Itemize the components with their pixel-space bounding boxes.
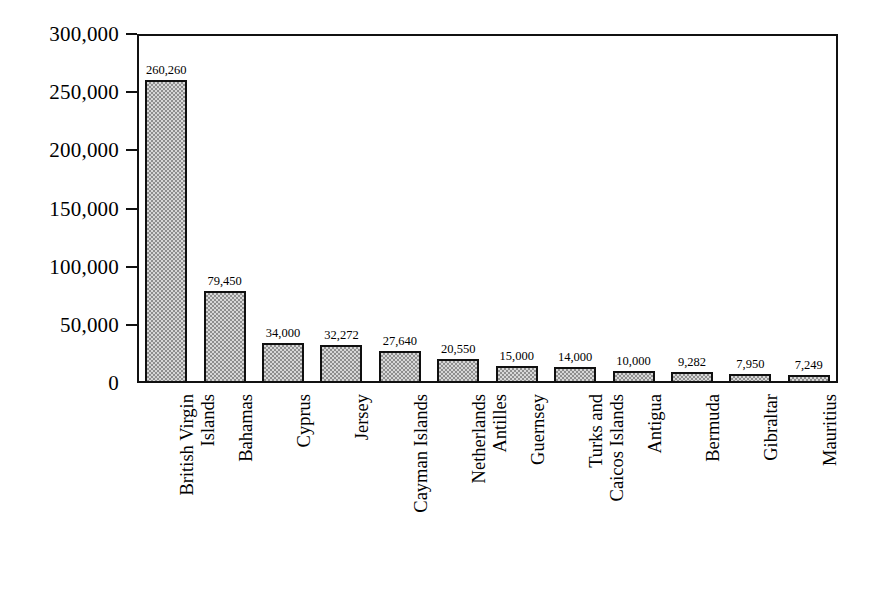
category-label: Cyprus <box>294 394 315 447</box>
category-label: British VirginIslands <box>177 394 219 496</box>
y-axis-tick-mark <box>126 208 137 210</box>
y-axis-tick-mark <box>126 33 137 35</box>
category-label-line: Mauritius <box>820 394 841 466</box>
bar-group: 32,272 <box>320 34 362 383</box>
bar-group: 7,950 <box>729 34 771 383</box>
bar-group: 9,282 <box>671 34 713 383</box>
y-axis-tick-label: 300,000 <box>49 19 119 49</box>
category-label: Turks andCaicos Islands <box>586 394 628 501</box>
category-label-line: Antilles <box>490 394 511 453</box>
y-axis-tick-label: 50,000 <box>60 310 119 340</box>
category-label: Cayman Islands <box>411 394 432 513</box>
category-label-line: Gibraltar <box>761 394 782 461</box>
bar-value-label: 27,640 <box>383 334 417 348</box>
category-label-line: Bermuda <box>703 394 724 462</box>
y-axis-tick-mark <box>126 91 137 93</box>
bar-group: 79,450 <box>204 34 246 383</box>
bar[interactable] <box>613 371 655 383</box>
y-axis-tick-label: 150,000 <box>49 194 119 224</box>
y-axis-tick-mark <box>126 149 137 151</box>
bar[interactable] <box>496 366 538 383</box>
bar[interactable] <box>262 343 304 383</box>
bar[interactable] <box>729 374 771 383</box>
category-label-line: Islands <box>198 394 219 446</box>
bar[interactable] <box>437 359 479 383</box>
category-label-line: Caicos Islands <box>607 394 628 501</box>
category-label-line: Bahamas <box>236 394 257 462</box>
bar-chart: 050,000100,000150,000200,000250,000300,0… <box>0 0 871 589</box>
y-axis-tick-label: 250,000 <box>49 77 119 107</box>
category-label-line: Cyprus <box>294 394 315 447</box>
bar-group: 15,000 <box>496 34 538 383</box>
category-label-line: Guernsey <box>528 394 549 465</box>
bar[interactable] <box>554 367 596 383</box>
y-axis-tick-mark <box>126 324 137 326</box>
category-label: Antigua <box>645 394 666 454</box>
bar-group: 14,000 <box>554 34 596 383</box>
category-label: Jersey <box>352 394 373 440</box>
category-label-line: Jersey <box>352 394 373 440</box>
bar-group: 10,000 <box>613 34 655 383</box>
bar-value-label: 79,450 <box>207 274 241 288</box>
category-label-line: Netherlands <box>469 394 490 483</box>
y-axis-tick-label: 200,000 <box>49 135 119 165</box>
category-label: Guernsey <box>528 394 549 465</box>
category-label-line: Antigua <box>645 394 666 454</box>
category-label: Bermuda <box>703 394 724 462</box>
bar-value-label: 7,950 <box>736 357 764 371</box>
category-label-line: Cayman Islands <box>411 394 432 513</box>
category-label: Mauritius <box>820 394 841 466</box>
bar-value-label: 260,260 <box>146 63 187 77</box>
bar-value-label: 32,272 <box>324 328 358 342</box>
y-axis-tick-label: 0 <box>108 368 119 398</box>
bar-value-label: 9,282 <box>678 355 706 369</box>
category-label: Gibraltar <box>761 394 782 461</box>
bar[interactable] <box>379 351 421 383</box>
y-axis-tick-label: 100,000 <box>49 252 119 282</box>
bar-group: 7,249 <box>788 34 830 383</box>
bar[interactable] <box>320 345 362 383</box>
bar-value-label: 34,000 <box>266 326 300 340</box>
bar-group: 20,550 <box>437 34 479 383</box>
category-label: NetherlandsAntilles <box>469 394 511 483</box>
bar[interactable] <box>145 80 187 383</box>
bar-value-label: 14,000 <box>558 350 592 364</box>
category-label-line: Turks and <box>586 394 607 468</box>
category-label-line: British Virgin <box>177 394 198 496</box>
bar-value-label: 15,000 <box>500 349 534 363</box>
bar-group: 27,640 <box>379 34 421 383</box>
y-axis-tick-mark <box>126 266 137 268</box>
bar[interactable] <box>671 372 713 383</box>
bar[interactable] <box>788 375 830 383</box>
bar-value-label: 10,000 <box>616 354 650 368</box>
bar-value-label: 7,249 <box>795 358 823 372</box>
category-label: Bahamas <box>236 394 257 462</box>
bar-group: 34,000 <box>262 34 304 383</box>
bar[interactable] <box>204 291 246 383</box>
bar-group: 260,260 <box>145 34 187 383</box>
bar-value-label: 20,550 <box>441 342 475 356</box>
